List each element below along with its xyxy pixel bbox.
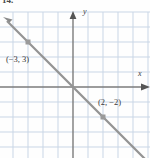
- x-axis-label: x: [138, 69, 142, 78]
- y-axis-label: y: [83, 7, 87, 16]
- point-label-1: (−3, 3): [6, 54, 29, 64]
- point-marker-2: [101, 115, 106, 120]
- point-label-2: (2, −2): [98, 97, 121, 107]
- graph-canvas: [0, 0, 150, 158]
- coordinate-plane-figure: 14.: [0, 0, 150, 158]
- point-marker-1: [26, 40, 31, 45]
- x-axis-arrow-icon: [141, 83, 150, 90]
- grid-lines: [0, 12, 150, 158]
